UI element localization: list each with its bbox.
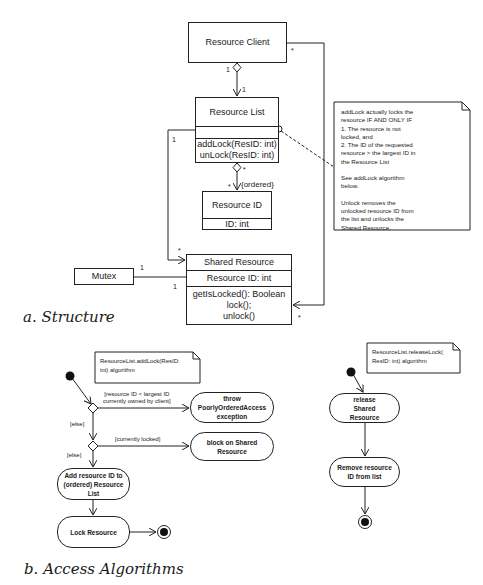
final-node-icon [160, 528, 168, 536]
class-name: Resource List [196, 98, 278, 126]
constraint-label: {ordered} [241, 181, 274, 189]
class-name: Shared Resource [187, 255, 291, 270]
initial-node-icon [347, 368, 356, 377]
guard-label: [resource ID < largest ID currently owne… [103, 391, 171, 405]
class-resource-client[interactable]: Resource Client [188, 22, 287, 63]
guard-label: [currently locked] [115, 436, 160, 443]
structure-note: addLock actually locks the resource IF A… [336, 104, 464, 236]
final-node-icon [361, 518, 369, 526]
class-name: Resource ID [203, 192, 271, 218]
method: addLock(ResID: int) [196, 139, 278, 150]
multiplicity-label: * [291, 47, 294, 55]
class-resource-id[interactable]: Resource ID ID: int [202, 191, 272, 230]
multiplicity-label: 1 [172, 136, 176, 144]
divider [187, 286, 291, 287]
multiplicity-label: * [228, 183, 231, 191]
class-mutex[interactable]: Mutex [74, 268, 134, 285]
structure-caption: a. Structure [23, 308, 115, 326]
method: lock(); [187, 300, 291, 311]
action-remove-resource-id[interactable]: Remove resource ID from list [329, 457, 400, 487]
multiplicity-label: 1 [140, 264, 144, 272]
guard-label: [else] [67, 452, 81, 459]
multiplicity-label: * [243, 166, 246, 174]
multiplicity-label: 1 [226, 66, 230, 74]
action-block-on-shared-resource[interactable]: block on Shared Resource [190, 432, 274, 461]
initial-node-icon [66, 372, 75, 381]
method: unlock() [187, 311, 291, 322]
class-resource-list[interactable]: Resource List addLock(ResID: int) unLock… [195, 97, 279, 163]
addlock-note: ResourceList.addLock(ResID: int) algorit… [96, 355, 196, 377]
releaselock-note: ResourceList.releaseLock( ResID: int) al… [368, 346, 458, 368]
class-name: Mutex [75, 269, 133, 284]
action-throw-exception[interactable]: throw PoorlyOrderedAccess exception [190, 392, 274, 423]
multiplicity-label: * [298, 314, 301, 322]
multiplicity-label: 1 [173, 283, 177, 291]
class-name: Resource Client [189, 23, 286, 62]
class-shared-resource[interactable]: Shared Resource Resource ID: int getIsLo… [186, 254, 292, 325]
divider [196, 126, 278, 127]
attribute: Resource ID: int [187, 271, 291, 286]
action-lock-resource[interactable]: Lock Resource [57, 516, 130, 548]
multiplicity-label: * [178, 247, 181, 255]
guard-label: [else] [70, 421, 84, 428]
multiplicity-label: 1 [242, 86, 246, 94]
method: getIsLocked(): Boolean [187, 289, 291, 300]
action-add-resource-id[interactable]: Add resource ID to (ordered) Resource Li… [57, 468, 130, 500]
attribute: ID: int [203, 219, 271, 230]
method: unLock(ResID: int) [196, 150, 278, 161]
action-release-shared-resource[interactable]: release Shared Resource [329, 393, 400, 423]
algorithms-caption: b. Access Algorithms [24, 560, 184, 578]
